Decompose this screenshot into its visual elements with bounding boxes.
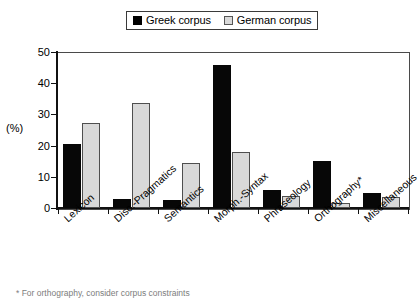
y-tick-label: 20 [28,141,50,152]
x-tick-mark [308,209,309,214]
chart-footnote: * For orthography, consider corpus const… [16,288,190,298]
y-tick-mark [51,52,57,53]
bar-chart-figure: Greek corpus German corpus (%) 010203040… [0,0,420,299]
y-tick-label: 0 [28,203,50,214]
legend-swatch-greek-corpus [133,16,142,25]
x-tick-mark [108,209,109,214]
legend-item-german-corpus: German corpus [224,15,312,26]
bar-greek-corpus [63,144,81,208]
y-tick-label: 30 [28,109,50,120]
legend-label-greek-corpus: Greek corpus [146,15,211,26]
y-axis-ticks: 01020304050 [24,0,50,299]
x-tick-mark [58,209,59,214]
x-tick-mark [158,209,159,214]
legend-swatch-german-corpus [224,16,233,25]
y-tick-mark [51,177,57,178]
bar-greek-corpus [213,65,231,208]
x-tick-mark [208,209,209,214]
y-tick-mark [51,83,57,84]
y-tick-mark [51,114,57,115]
bar-group [58,52,108,208]
x-tick-mark [258,209,259,214]
y-tick-mark [51,146,57,147]
x-tick-mark [408,209,409,214]
legend-label-german-corpus: German corpus [237,15,312,26]
legend-item-greek-corpus: Greek corpus [133,15,211,26]
chart-legend: Greek corpus German corpus [126,11,318,30]
y-tick-mark [51,208,57,209]
y-tick-label: 10 [28,172,50,183]
y-axis-title: (%) [6,123,23,134]
y-tick-label: 50 [28,47,50,58]
y-tick-label: 40 [28,78,50,89]
x-tick-mark [358,209,359,214]
